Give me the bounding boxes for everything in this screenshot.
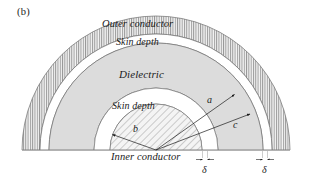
label-outer-conductor: Outer conductor xyxy=(102,19,173,30)
delta-left-dimension xyxy=(196,151,214,160)
figure-panel: (b) xyxy=(0,0,311,183)
label-radius-a: a xyxy=(207,95,212,105)
label-skin-depth-outer: Skin depth xyxy=(116,37,159,47)
label-skin-depth-inner: Skin depth xyxy=(112,101,155,111)
label-dielectric: Dielectric xyxy=(119,69,164,80)
label-inner-conductor: Inner conductor xyxy=(111,152,180,163)
label-delta-left: δ xyxy=(202,165,207,175)
label-delta-right: δ xyxy=(262,165,267,175)
label-radius-c: c xyxy=(233,120,238,130)
label-radius-b: b xyxy=(133,124,138,134)
delta-right-dimension xyxy=(256,151,274,160)
